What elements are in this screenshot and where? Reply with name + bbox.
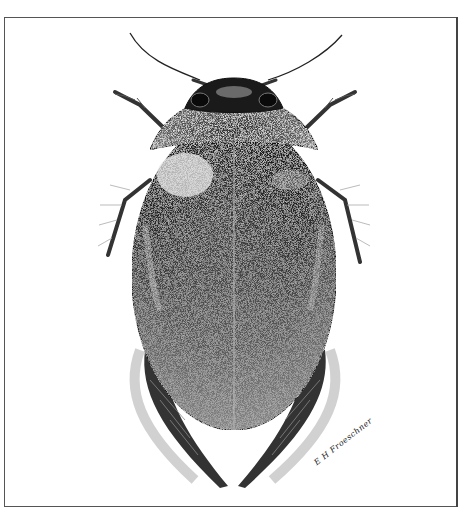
antenna-left bbox=[130, 33, 200, 80]
antenna-right bbox=[268, 35, 342, 80]
front-leg-left bbox=[115, 92, 168, 132]
eye-left bbox=[191, 93, 209, 107]
beetle-illustration bbox=[0, 0, 469, 515]
eye-right bbox=[259, 93, 277, 107]
front-leg-right bbox=[302, 92, 355, 132]
